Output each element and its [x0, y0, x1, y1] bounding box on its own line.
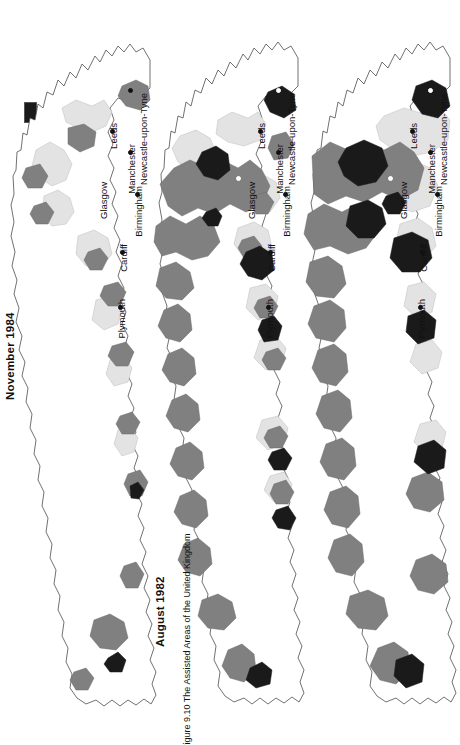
city-label-plymouth: Plymouth [116, 299, 127, 339]
city-label-glasgow: Glasgow [398, 182, 409, 219]
city-label-plymouth: Plymouth [264, 299, 275, 339]
map-august-1982 [150, 0, 305, 745]
map-november-1984 [0, 0, 160, 745]
city-label-glasgow: Glasgow [98, 182, 109, 219]
city-dot-newcastle-upon-tyne [128, 88, 133, 93]
city-dot-glasgow [88, 176, 93, 181]
city-label-leeds: Leeds [256, 123, 267, 149]
city-label-newcastle-upon-tyne: Newcastle-upon-Tyne [438, 93, 449, 185]
city-label-birmingham: Birmingham [281, 186, 292, 237]
map-panel-june-1979: June 1979 [300, 0, 460, 745]
city-label-glasgow: Glasgow [246, 182, 257, 219]
city-label-birmingham: Birmingham [133, 186, 144, 237]
figure-caption: Figure 9.10 The Assisted Areas of the Un… [182, 470, 193, 745]
city-label-newcastle-upon-tyne: Newcastle-upon-Tyne [138, 93, 149, 185]
city-label-plymouth: Plymouth [416, 299, 427, 339]
map-panel-november-1984: November 1984 [0, 0, 160, 745]
city-label-cardiff: Cardiff [118, 244, 129, 272]
city-label-cardiff: Cardiff [266, 244, 277, 272]
city-label-cardiff: Cardiff [418, 244, 429, 272]
city-dot-glasgow [236, 176, 241, 181]
city-label-newcastle-upon-tyne: Newcastle-upon-Tyne [286, 93, 297, 185]
city-label-birmingham: Birmingham [433, 186, 444, 237]
city-dot-newcastle-upon-tyne [276, 88, 281, 93]
city-label-leeds: Leeds [408, 123, 419, 149]
map-june-1979 [300, 0, 460, 745]
city-dot-newcastle-upon-tyne [428, 88, 433, 93]
map-panel-august-1982: August 1982 [150, 0, 305, 745]
city-label-leeds: Leeds [108, 123, 119, 149]
figure-assisted-areas-uk: Special Development Areas Development Ar… [0, 0, 460, 745]
city-dot-glasgow [388, 176, 393, 181]
